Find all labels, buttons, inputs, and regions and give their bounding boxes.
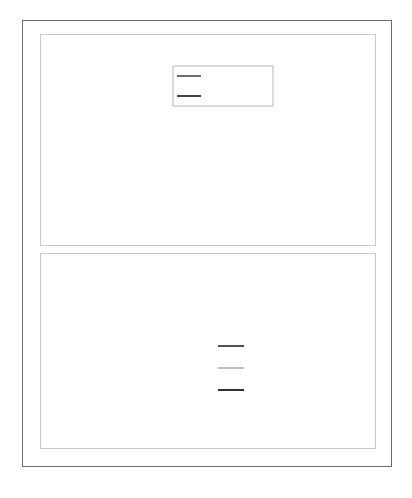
top-chart-panel: [40, 34, 376, 246]
top-legend: [173, 66, 273, 106]
bottom-chart: [41, 254, 377, 450]
bottom-chart-panel: [40, 253, 376, 449]
top-chart: [41, 35, 377, 247]
bottom-legend: [218, 346, 244, 390]
